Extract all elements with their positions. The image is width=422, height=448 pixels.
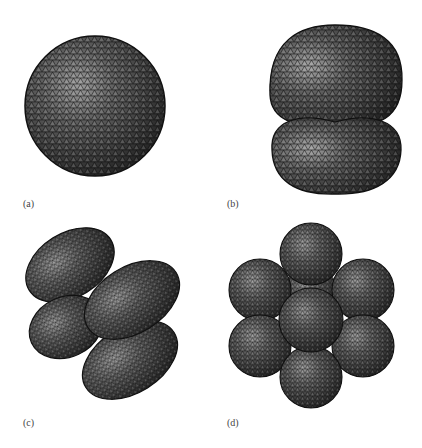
panel-c-ellipsoids [12, 212, 193, 415]
panel-label-c: (c) [23, 418, 34, 428]
panel-label-a: (a) [23, 199, 34, 209]
mesh-illustrations [0, 0, 422, 448]
panel-b-lobes [270, 25, 402, 194]
panel-label-b: (b) [227, 199, 239, 209]
panel-label-d: (d) [227, 418, 239, 428]
panel-d-sphere-cluster [229, 223, 394, 408]
panel-a-sphere [25, 36, 165, 176]
figure: (a) (b) (c) (d) [0, 0, 422, 448]
